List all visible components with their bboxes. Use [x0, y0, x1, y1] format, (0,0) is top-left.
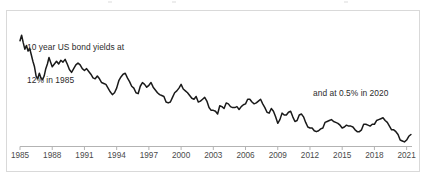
- x-axis-tick-label: 1985: [11, 151, 29, 160]
- x-axis-tick-label: 2009: [269, 151, 287, 160]
- x-axis-tick-label: 2018: [365, 151, 383, 160]
- x-axis-tick-label: 2021: [398, 151, 416, 160]
- annotation-right: and at 0.5% in 2020: [313, 88, 388, 99]
- x-axis-tick-label: 2006: [236, 151, 254, 160]
- x-axis-tick-label: 1994: [108, 151, 126, 160]
- x-axis-tick-label: 2015: [333, 151, 351, 160]
- x-axis-tick-label: 1997: [140, 151, 158, 160]
- annotation-left: 10 year US bond yields at 12% in 1985: [27, 20, 124, 108]
- chart-figure: 10 year US bond yields at 12% in 1985 an…: [0, 0, 428, 178]
- x-axis-group: [20, 147, 412, 151]
- x-axis-tick-label: 1988: [43, 151, 61, 160]
- annotation-left-line2: 12% in 1985: [27, 75, 124, 86]
- x-axis-tick-label: 2000: [172, 151, 190, 160]
- x-axis-tick-labels: 1985198819911994199720002003200620092012…: [0, 151, 428, 165]
- x-axis-tick-label: 2003: [204, 151, 222, 160]
- x-axis-tick-label: 2012: [301, 151, 319, 160]
- x-axis-ticks: [20, 147, 407, 151]
- annotation-left-line1: 10 year US bond yields at: [27, 42, 124, 53]
- x-axis-tick-label: 1991: [75, 151, 93, 160]
